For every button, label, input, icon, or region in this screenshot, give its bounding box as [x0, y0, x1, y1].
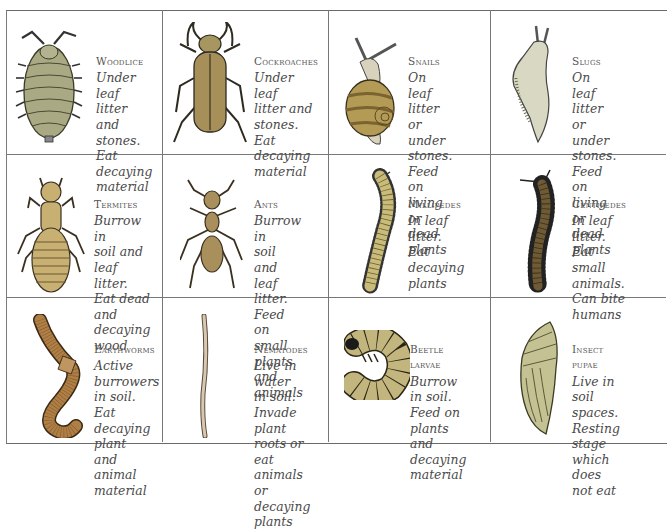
organism-description: In leaf litter. Eat small animals. Can b… — [572, 213, 625, 322]
column-divider — [328, 10, 329, 442]
organism-description: Under leaf litter and stones. Eat decayi… — [96, 70, 152, 194]
column-divider — [162, 10, 163, 442]
cell-text: NematodesLive in water in soil. Invade p… — [254, 326, 310, 530]
slug-icon — [508, 22, 558, 148]
cell-text: EarthwormsActive burrowers in soil. Eat … — [94, 326, 159, 499]
organism-name: Nematodes — [254, 342, 310, 358]
cell-text: WoodliceUnder leaf litter and stones. Ea… — [96, 38, 152, 195]
snail-icon — [342, 30, 412, 148]
organism-name: Beetle larvae — [410, 342, 466, 373]
cell-text: CentipedesIn leaf litter. Eat small anim… — [572, 181, 626, 322]
millipede-icon — [354, 168, 398, 294]
organism-name: Insect pupae — [572, 342, 620, 373]
organism-description: Live in water in soil. Invade plant root… — [254, 358, 310, 529]
nematode-icon — [196, 314, 212, 438]
termite-icon — [16, 176, 86, 294]
organism-name: Centipedes — [572, 197, 626, 213]
organism-name: Cockroaches — [254, 54, 318, 70]
organism-name: Slugs — [572, 54, 616, 70]
organism-name: Millipedes — [408, 197, 464, 213]
organism-name: Earthworms — [94, 342, 159, 358]
centipede-icon — [514, 168, 564, 294]
organism-name: Ants — [254, 197, 303, 213]
earthworm-icon — [30, 314, 90, 438]
woodlouse-icon — [14, 26, 84, 150]
organism-description: Live in soil spaces. Resting stage which… — [572, 374, 620, 498]
organism-description: Burrow in soil. Feed on plants and decay… — [410, 374, 466, 483]
cell-text: CockroachesUnder leaf litter and stones.… — [254, 38, 318, 179]
cell-text: Insect pupaeLive in soil spaces. Resting… — [572, 326, 620, 499]
organism-description: Active burrowers in soil. Eat decaying p… — [94, 358, 159, 498]
organism-name: Snails — [408, 54, 452, 70]
organism-name: Woodlice — [96, 54, 152, 70]
organism-description: In leaf litter. Eat decaying plants — [408, 213, 464, 290]
ant-icon — [180, 178, 244, 294]
organism-description: Under leaf litter and stones. Eat decayi… — [254, 70, 312, 179]
insect-pupa-icon — [514, 318, 564, 438]
beetle-larva-icon — [344, 330, 410, 400]
column-divider — [490, 10, 491, 442]
cell-text: MillipedesIn leaf litter. Eat decaying p… — [408, 181, 464, 291]
cockroach-icon — [170, 22, 250, 144]
cell-text: Beetle larvaeBurrow in soil. Feed on pla… — [410, 326, 466, 483]
organism-name: Termites — [94, 197, 150, 213]
